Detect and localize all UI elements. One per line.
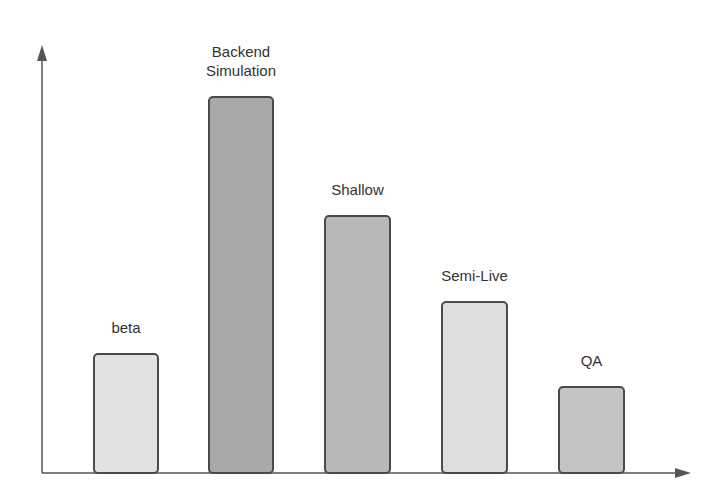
bar-semi-live <box>441 301 508 474</box>
bar-label: Backend Simulation <box>206 42 276 80</box>
bar-backend-simulation <box>208 96 274 474</box>
bar-beta <box>93 353 159 474</box>
bar-label: Semi-Live <box>441 266 508 285</box>
x-axis-arrow-icon <box>675 468 691 478</box>
bar-shallow <box>324 215 391 474</box>
bar-label: Shallow <box>331 180 384 199</box>
bar-qa <box>558 386 625 474</box>
bar-chart: betaBackend SimulationShallowSemi-LiveQA <box>0 0 726 500</box>
y-axis-arrow-icon <box>37 45 47 61</box>
bar-label: QA <box>581 351 603 370</box>
bar-label: beta <box>111 318 140 337</box>
